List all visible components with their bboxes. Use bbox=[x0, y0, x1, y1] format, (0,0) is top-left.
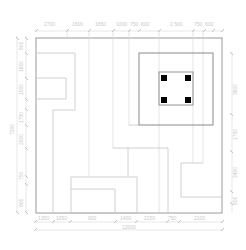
bottom-dimension-labels: 1350 1050 900 1400 2150 750 2100 12000 bbox=[38, 215, 205, 230]
floor-plan-drawing: 2700 1600 1650 1000 750 600 2 500 750 60… bbox=[0, 0, 246, 250]
column-icon bbox=[185, 97, 191, 103]
dim-total-label: 7200 bbox=[9, 124, 15, 135]
column-icon bbox=[161, 75, 167, 81]
dim-label: 1050 bbox=[56, 215, 67, 221]
room-bottom-center bbox=[71, 177, 137, 213]
room-center-corridor bbox=[113, 148, 168, 213]
right-dimension-labels: 3600 1750 2400 600 bbox=[232, 84, 238, 205]
dim-label: 900 bbox=[18, 198, 24, 207]
dim-label: 750 bbox=[130, 21, 139, 27]
dim-label: 3600 bbox=[232, 84, 238, 95]
dim-label: 2 500 bbox=[170, 21, 183, 27]
top-dimension-labels: 2700 1600 1650 1000 750 600 2 500 750 60… bbox=[44, 21, 214, 27]
dim-label: 1600 bbox=[72, 21, 83, 27]
column-icon bbox=[161, 97, 167, 103]
left-dimension-labels: 600 1600 1000 1750 2000 750 900 7200 bbox=[9, 41, 24, 207]
dim-label: 600 bbox=[232, 196, 238, 205]
right-dimension-ticks bbox=[230, 52, 233, 205]
room-bottom-inner bbox=[71, 189, 115, 213]
dim-label: 2700 bbox=[44, 21, 55, 27]
dim-label: 2100 bbox=[194, 215, 205, 221]
dim-label: 1000 bbox=[116, 21, 127, 27]
dim-label: 1650 bbox=[95, 21, 106, 27]
dim-label: 1750 bbox=[18, 112, 24, 123]
room-right-lower bbox=[181, 163, 222, 197]
grid-lines bbox=[67, 31, 203, 213]
column-icon bbox=[185, 75, 191, 81]
dim-label: 600 bbox=[205, 21, 214, 27]
core-outer-wall bbox=[139, 53, 213, 125]
dim-label: 2150 bbox=[144, 215, 155, 221]
dim-label: 1000 bbox=[18, 84, 24, 95]
dim-label: 600 bbox=[141, 21, 150, 27]
dim-label: 1400 bbox=[120, 215, 131, 221]
top-dimension-ticks bbox=[35, 29, 224, 32]
dim-label: 750 bbox=[194, 21, 203, 27]
dim-label: 2000 bbox=[18, 134, 24, 145]
columns bbox=[161, 75, 191, 103]
dim-label: 2400 bbox=[232, 167, 238, 178]
dim-label: 900 bbox=[88, 215, 97, 221]
dim-label: 1600 bbox=[18, 61, 24, 72]
dim-total-label: 12000 bbox=[122, 224, 136, 230]
dim-label: 1750 bbox=[232, 129, 238, 140]
dim-label: 1350 bbox=[38, 215, 49, 221]
dim-label: 750 bbox=[168, 215, 177, 221]
room-left-alcove bbox=[36, 78, 66, 99]
dim-label: 600 bbox=[18, 41, 24, 50]
dim-label: 750 bbox=[18, 171, 24, 180]
room-left-upper bbox=[36, 53, 75, 213]
